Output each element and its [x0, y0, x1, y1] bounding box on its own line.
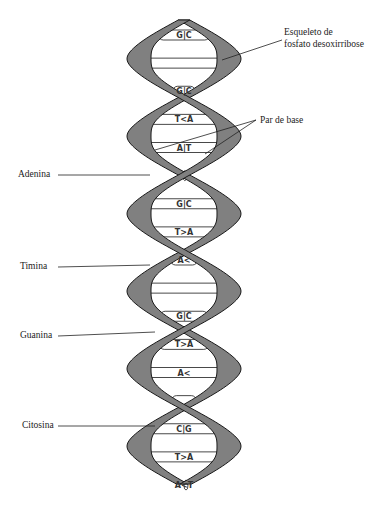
label-backbone-line1: Esqueleto de: [284, 27, 333, 38]
leader-guanine: [58, 332, 155, 336]
base-pair-rung: [139, 283, 228, 293]
base-pair-text: T<A: [175, 115, 194, 124]
base-pair-text: A<: [178, 369, 191, 378]
base-pair-rung: [140, 58, 229, 68]
base-pair-text: G|C: [176, 31, 191, 40]
base-pair-text: A|T: [177, 144, 192, 153]
dna-helix-diagram: G|CG|CT<AA|TG|CT>AA<G|CT>AA<C|GT>AA<T: [0, 0, 369, 508]
label-thymine: Timina: [20, 261, 47, 272]
base-pair-text: T>A: [175, 453, 194, 462]
label-backbone-line2: fosfato desoxirribose: [284, 39, 364, 50]
base-pair-text: A<T: [175, 481, 194, 490]
base-pair-text: C|G: [176, 425, 191, 434]
base-pair-text: T>A: [175, 228, 194, 237]
leader-thymine: [58, 265, 150, 267]
base-pair-text: G|C: [176, 200, 191, 209]
label-guanine: Guanina: [20, 330, 52, 341]
label-cytosine: Citosina: [22, 420, 54, 431]
base-pair-text: G|C: [176, 312, 191, 321]
base-pair-text: A<: [178, 256, 191, 265]
base-pair-text: T>A: [175, 340, 194, 349]
label-base-pair: Par de base: [260, 115, 303, 126]
label-adenine: Adenina: [18, 169, 50, 180]
base-pair-text: G|C: [176, 87, 191, 96]
